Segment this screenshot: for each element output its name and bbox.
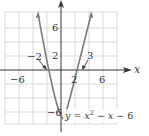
y-tick-6: 6 — [52, 22, 58, 33]
y-tick-2: 2 — [52, 50, 58, 61]
root-right-arrow-icon — [82, 65, 86, 70]
y-tick-neg6: −6 — [47, 107, 62, 118]
x-axis-label: x — [134, 63, 141, 76]
x-tick-6: 6 — [99, 74, 105, 85]
x-tick-2: 2 — [71, 74, 77, 85]
x-tick-neg6: −6 — [10, 74, 25, 85]
parabola-graph: −6 2 6 6 2 −6 −2 3 x y = x2 − x − 6 — [0, 0, 149, 136]
root-left-label: −2 — [27, 51, 42, 62]
equation-label: y = x2 − x − 6 — [64, 109, 133, 121]
root-left-arrow-icon — [42, 65, 47, 70]
root-right-pointer — [84, 60, 88, 67]
root-right-label: 3 — [87, 50, 93, 61]
